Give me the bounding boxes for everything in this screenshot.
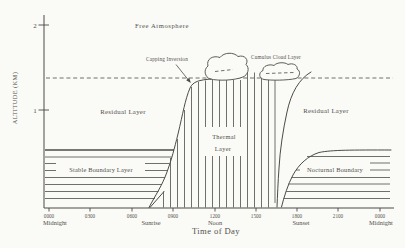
x-axis-sub-label: Midnight bbox=[369, 219, 393, 226]
stable-boundary-layer-label: Stable Boundary Layer bbox=[69, 166, 133, 173]
nocturnal-boundary-label: Nocturnal Boundary bbox=[307, 166, 364, 173]
boundary-layer-diagram: Free AtmosphereCapping InversionCumulus … bbox=[0, 0, 405, 248]
x-tick-label: 2100 bbox=[333, 213, 344, 219]
diagram-svg: Free AtmosphereCapping InversionCumulus … bbox=[0, 0, 405, 248]
thermal-layer-label-line1: Thermal bbox=[212, 133, 236, 140]
paper-background bbox=[0, 0, 405, 248]
cumulus-cloud-left bbox=[205, 53, 248, 80]
x-axis-sub-label: Sunrise bbox=[141, 219, 160, 226]
x-axis-sub-label: Noon bbox=[208, 219, 223, 226]
label-mask bbox=[204, 127, 244, 156]
cumulus-cloud-layer-label: Cumulus Cloud Layer bbox=[251, 54, 301, 60]
x-tick-label: 0000 bbox=[375, 213, 386, 219]
x-tick-label: 0000 bbox=[44, 213, 55, 219]
x-tick-label: 0600 bbox=[127, 213, 138, 219]
x-axis-sub-label: Midnight bbox=[43, 219, 67, 226]
x-axis-title: Time of Day bbox=[192, 226, 240, 236]
y-axis-title: ALTITUDE (KM) bbox=[11, 72, 19, 124]
residual-layer-right-label: Residual Layer bbox=[303, 107, 349, 114]
thermal-layer-label-line2: Layer bbox=[215, 145, 232, 152]
capping-inversion-label: Capping Inversion bbox=[146, 56, 188, 62]
x-tick-label: 0300 bbox=[85, 213, 96, 219]
x-tick-label: 1200 bbox=[210, 213, 221, 219]
y-tick-label: 1 bbox=[33, 107, 37, 115]
residual-layer-left-label: Residual Layer bbox=[100, 108, 146, 115]
y-tick-label: 2 bbox=[33, 22, 37, 30]
x-tick-label: 1500 bbox=[251, 213, 262, 219]
x-tick-label: 0900 bbox=[168, 213, 179, 219]
x-axis-sub-label: Sunset bbox=[292, 219, 309, 226]
x-tick-label: 1800 bbox=[292, 213, 303, 219]
free-atmosphere-label: Free Atmosphere bbox=[135, 22, 189, 29]
